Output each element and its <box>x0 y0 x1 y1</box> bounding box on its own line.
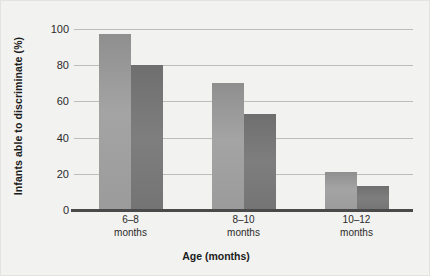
bar <box>131 65 163 210</box>
y-tick-label: 60 <box>37 95 69 107</box>
x-category-unit: months <box>307 227 407 240</box>
y-axis-title-text: Infants able to discriminate (%) <box>12 37 24 195</box>
bars-layer <box>74 29 413 210</box>
chart-figure: Infants able to discriminate (%) 0204060… <box>0 0 430 276</box>
x-category-range: 8–10 <box>194 214 294 227</box>
y-tick-label: 40 <box>37 132 69 144</box>
x-category-range: 6–8 <box>81 214 181 227</box>
x-category-unit: months <box>81 227 181 240</box>
y-axis-title: Infants able to discriminate (%) <box>1 1 35 231</box>
y-tick-label: 0 <box>37 204 69 216</box>
x-category-label: 6–8months <box>81 214 181 239</box>
bar <box>99 34 131 210</box>
y-tick-label: 100 <box>37 23 69 35</box>
y-tick-label: 80 <box>37 59 69 71</box>
bar <box>212 83 244 210</box>
x-category-label: 8–10months <box>194 214 294 239</box>
bar <box>357 186 389 210</box>
y-tick-label: 20 <box>37 168 69 180</box>
y-axis-tick-labels: 020406080100 <box>31 29 69 210</box>
bar <box>244 114 276 210</box>
bar <box>325 172 357 210</box>
x-axis-title: Age (months) <box>1 250 430 262</box>
x-axis-category-labels: 6–8months8–10months10–12months <box>74 214 413 248</box>
x-category-unit: months <box>194 227 294 240</box>
x-category-range: 10–12 <box>307 214 407 227</box>
x-axis-line <box>71 209 413 212</box>
x-category-label: 10–12months <box>307 214 407 239</box>
